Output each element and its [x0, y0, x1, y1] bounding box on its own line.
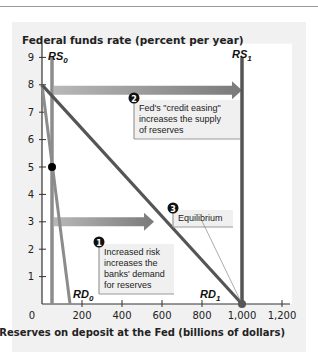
x-tick-label: 800 [192, 310, 211, 321]
y-tick-label: 8 [28, 79, 34, 90]
y-tick-label: 5 [28, 162, 34, 173]
callout-1-text: banks' demand [104, 269, 165, 279]
y-tick-label: 1 [28, 271, 34, 282]
x-tick-label: 200 [72, 310, 91, 321]
y-tick-label: 9 [28, 52, 34, 63]
callout-3-text: Equilibrium [178, 213, 223, 223]
x-tick-label: 1,000 [228, 310, 257, 321]
svg-text:1: 1 [96, 239, 102, 248]
y-tick-label: 2 [28, 244, 34, 255]
chart-svg: Federal funds rate (percent per year)123… [0, 0, 318, 361]
callout-2-text: increases the supply [139, 114, 222, 124]
callout-2-text: Fed's "credit easing" [139, 103, 221, 113]
callout-1-text: for reserves [104, 280, 152, 290]
callout-2-text: of reserves [139, 125, 184, 135]
svg-text:2: 2 [131, 95, 137, 104]
y-tick-label: 7 [28, 107, 34, 118]
y-tick-label: 6 [28, 134, 34, 145]
y-tick-label: 4 [28, 189, 34, 200]
x-tick-label: 0 [29, 310, 35, 321]
x-axis-title: Reserves on deposit at the Fed (billions… [0, 327, 285, 338]
new-equilibrium-point [238, 300, 246, 308]
x-tick-label: 1,200 [268, 310, 297, 321]
callout-1-text: increases the [104, 258, 158, 268]
initial-equilibrium-point [48, 163, 56, 171]
x-tick-label: 400 [112, 310, 131, 321]
x-tick-label: 600 [152, 310, 171, 321]
callout-1-text: Increased risk [104, 247, 161, 257]
y-axis-title: Federal funds rate (percent per year) [22, 34, 244, 46]
y-tick-label: 3 [28, 216, 34, 227]
svg-text:3: 3 [170, 205, 176, 214]
